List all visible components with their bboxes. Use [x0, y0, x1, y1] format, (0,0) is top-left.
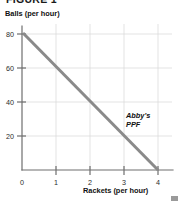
- ppf-annotation-line2: PPF: [126, 120, 141, 129]
- y-tick-label-60: 60: [6, 64, 14, 73]
- x-tick-label-1: 1: [54, 178, 58, 187]
- gridlines: [22, 24, 172, 170]
- x-tick-label-0: 0: [20, 178, 24, 187]
- ppf-line: [23, 33, 158, 170]
- ppf-chart: 80 60 40 20 0 1 2 3 4 Abby's PPF: [0, 0, 180, 203]
- corner-marker: [171, 196, 178, 201]
- y-tick-label-40: 40: [6, 98, 14, 107]
- y-tick-label-80: 80: [6, 30, 14, 39]
- axis-lines: [22, 26, 173, 170]
- figure-container: FIGURE 1 Balls (per hour): [0, 0, 180, 203]
- ppf-annotation-line1: Abby's: [125, 111, 150, 120]
- x-tick-label-4: 4: [156, 178, 160, 187]
- y-tick-label-20: 20: [6, 132, 14, 141]
- x-axis-title: Rackets (per hour): [83, 186, 148, 195]
